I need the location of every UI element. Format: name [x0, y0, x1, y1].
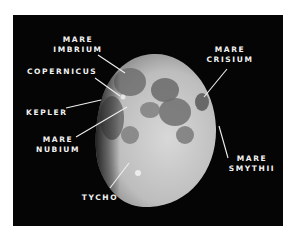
- leader-kepler: [66, 100, 101, 108]
- label-mare-smythii: MARE SMYTHII: [226, 154, 278, 174]
- label-line: COPERNICUS: [27, 67, 97, 77]
- tycho-crater: [135, 170, 141, 176]
- label-line: MARE: [50, 35, 106, 45]
- mare-nubium-patch: [121, 126, 139, 144]
- moon-disc: [90, 50, 220, 210]
- mare-fecunditatis-patch: [176, 126, 194, 144]
- label-kepler: KEPLER: [26, 108, 66, 118]
- label-line: MARE: [226, 154, 278, 164]
- label-line: KEPLER: [26, 108, 66, 118]
- mare-crisium-patch: [195, 93, 209, 111]
- leader-mare-imbrium: [98, 55, 125, 73]
- copernicus-crater: [121, 95, 126, 100]
- label-line: MARE: [205, 45, 255, 55]
- label-mare-nubium: MARE NUBIUM: [36, 135, 80, 155]
- label-line: TYCHO: [80, 193, 120, 203]
- label-line: SMYTHII: [226, 164, 278, 174]
- leader-mare-crisium: [204, 69, 227, 97]
- label-line: CRISIUM: [205, 55, 255, 65]
- moon-illustration: [0, 0, 295, 239]
- label-line: NUBIUM: [36, 145, 80, 155]
- mare-tranquillitatis-patch: [159, 98, 191, 126]
- label-tycho: TYCHO: [80, 193, 120, 203]
- label-mare-crisium: MARE CRISIUM: [205, 45, 255, 65]
- label-line: IMBRIUM: [50, 45, 106, 55]
- label-line: MARE: [36, 135, 80, 145]
- label-mare-imbrium: MARE IMBRIUM: [50, 35, 106, 55]
- label-copernicus: COPERNICUS: [27, 67, 97, 77]
